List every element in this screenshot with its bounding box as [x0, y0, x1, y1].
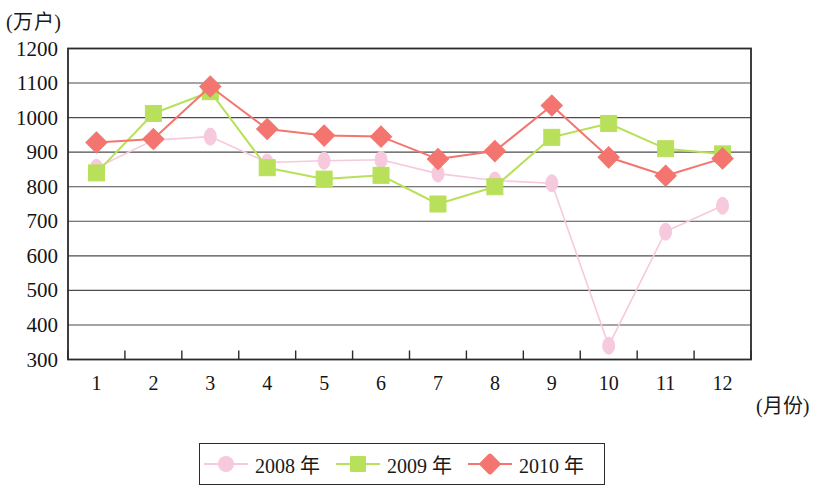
svg-text:9: 9 [547, 372, 557, 394]
chart-legend: 2008 年 2009 年 2010 年 [199, 443, 605, 485]
data-point-marker [660, 223, 672, 240]
data-point-marker [717, 197, 729, 214]
series-2008-年 [90, 128, 728, 354]
svg-text:2: 2 [148, 372, 158, 394]
svg-text:800: 800 [27, 175, 59, 199]
data-point-marker [487, 179, 503, 195]
plot-frame [68, 49, 751, 360]
data-point-marker [145, 105, 161, 121]
data-point-marker [314, 125, 335, 146]
legend-swatch-2009-icon [336, 455, 380, 473]
line-chart: (万户) (月份) 120011001000900800700600500400… [0, 0, 822, 490]
data-point-marker [601, 115, 617, 131]
data-point-marker [375, 151, 387, 168]
legend-swatch-2008-icon [204, 455, 248, 473]
svg-text:3: 3 [205, 372, 215, 394]
svg-text:300: 300 [27, 348, 59, 372]
svg-text:7: 7 [433, 372, 443, 394]
data-point-marker [86, 132, 107, 153]
series-2010-年 [86, 76, 733, 186]
data-point-marker [430, 196, 446, 212]
data-point-marker [370, 126, 391, 147]
svg-text:8: 8 [490, 372, 500, 394]
data-point-marker [204, 128, 216, 145]
svg-text:11: 11 [656, 372, 675, 394]
svg-text:4: 4 [262, 372, 272, 394]
data-point-marker [373, 167, 389, 183]
legend-label-2009: 2009 年 [387, 450, 452, 479]
y-tick-labels: 120011001000900800700600500400300 [16, 37, 58, 372]
x-tick-labels: 123456789101112 [91, 372, 732, 394]
svg-text:1200: 1200 [16, 37, 58, 61]
legend-item-2010: 2010 年 [468, 450, 600, 479]
svg-text:10: 10 [599, 372, 619, 394]
svg-text:700: 700 [27, 209, 59, 233]
svg-text:400: 400 [27, 313, 59, 337]
data-point-marker [544, 129, 560, 145]
legend-label-2008: 2008 年 [255, 450, 320, 479]
svg-text:1: 1 [91, 372, 101, 394]
svg-text:900: 900 [27, 140, 59, 164]
svg-text:500: 500 [27, 278, 59, 302]
legend-item-2008: 2008 年 [204, 450, 336, 479]
data-point-marker [658, 141, 674, 157]
data-point-marker [655, 165, 676, 186]
legend-label-2010: 2010 年 [519, 450, 584, 479]
svg-text:1000: 1000 [16, 106, 58, 130]
data-point-marker [546, 175, 558, 192]
legend-item-2009: 2009 年 [336, 450, 468, 479]
svg-text:1100: 1100 [17, 71, 58, 95]
svg-text:600: 600 [27, 244, 59, 268]
data-point-marker [257, 118, 278, 139]
svg-text:5: 5 [319, 372, 329, 394]
svg-text:6: 6 [376, 372, 386, 394]
data-point-marker [603, 337, 615, 354]
gridlines [68, 83, 751, 325]
svg-text:12: 12 [713, 372, 733, 394]
data-point-marker [318, 152, 330, 169]
plot-area: 120011001000900800700600500400300 123456… [0, 0, 822, 430]
data-point-marker [88, 165, 104, 181]
data-point-marker [259, 160, 275, 176]
data-point-marker [316, 171, 332, 187]
x-tick-marks [68, 351, 751, 360]
legend-swatch-2010-icon [468, 455, 512, 473]
data-point-marker [484, 140, 505, 161]
